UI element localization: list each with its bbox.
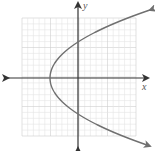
grid <box>22 18 136 136</box>
parabola-plot: x y <box>0 0 155 151</box>
y-axis-label: y <box>82 0 88 11</box>
x-axis-label: x <box>141 81 147 92</box>
